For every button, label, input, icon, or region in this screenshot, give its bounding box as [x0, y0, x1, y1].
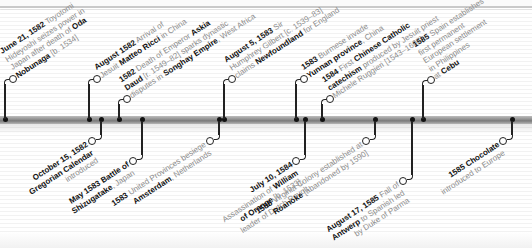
event-marker-ring-icon[interactable] [292, 157, 300, 165]
connector-stem [141, 121, 143, 155]
connector-stem [374, 121, 376, 135]
connector-stem [411, 121, 413, 175]
connector-stem [4, 84, 6, 119]
connector-stem [511, 121, 513, 135]
timeline-bar [0, 116, 532, 124]
connector-stem [422, 85, 424, 119]
connector-stem [223, 84, 225, 119]
connector-stem [295, 84, 297, 119]
event-marker-ring-icon[interactable] [88, 137, 96, 145]
event-marker-ring-icon[interactable] [362, 137, 370, 145]
connector-stem [304, 121, 306, 155]
connector-stem [118, 104, 120, 119]
connector-stem [88, 84, 90, 119]
event-marker-ring-icon[interactable] [399, 177, 407, 185]
page-bottom-fade [0, 232, 532, 248]
event-marker-ring-icon[interactable] [206, 137, 214, 145]
connector-stem [321, 104, 323, 119]
event-marker-ring-icon[interactable] [129, 157, 137, 165]
timeline-bar-shadow [0, 124, 532, 134]
connector-stem [100, 121, 102, 135]
connector-stem [218, 121, 220, 135]
event-marker-ring-icon[interactable] [499, 137, 507, 145]
